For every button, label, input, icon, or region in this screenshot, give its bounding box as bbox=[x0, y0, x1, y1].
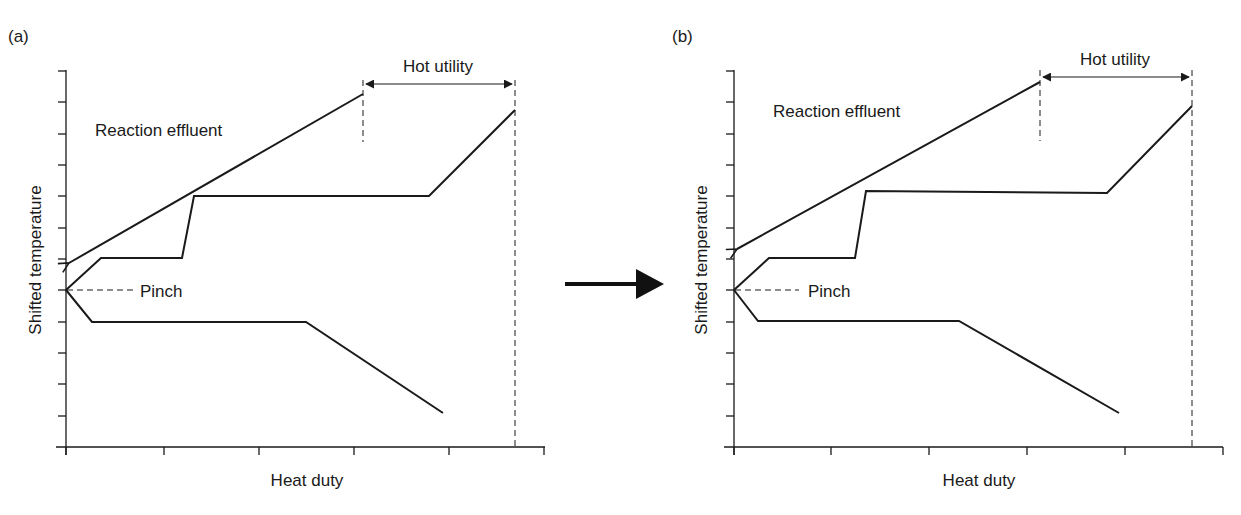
y-axis-label: Shifted temperature bbox=[26, 185, 45, 334]
composite-curve-lower bbox=[66, 290, 443, 413]
reaction-effluent-line bbox=[69, 94, 363, 263]
pinch-label: Pinch bbox=[140, 282, 183, 301]
figure-canvas: (a) Heat duty Shifted tem bbox=[0, 0, 1241, 515]
x-axis-label: Heat duty bbox=[943, 471, 1016, 490]
panel-a: (a) Heat duty Shifted tem bbox=[8, 27, 545, 490]
hot-utility-label: Hot utility bbox=[1080, 50, 1150, 69]
y-axis bbox=[58, 70, 66, 455]
hot-utility-label: Hot utility bbox=[403, 57, 473, 76]
y-axis-label: Shifted temperature bbox=[692, 185, 711, 334]
composite-curve-lower bbox=[734, 290, 1119, 413]
reaction-effluent-label: Reaction effluent bbox=[95, 121, 223, 140]
x-axis bbox=[56, 447, 545, 455]
panel-label: (b) bbox=[672, 27, 693, 46]
reaction-effluent-label: Reaction effluent bbox=[773, 102, 901, 121]
panel-b: (b) Heat duty Shifted temperat bbox=[672, 27, 1223, 490]
pinch-label: Pinch bbox=[808, 282, 851, 301]
composite-curve-upper bbox=[734, 106, 1192, 290]
x-axis bbox=[724, 447, 1223, 455]
transition-arrow-icon bbox=[565, 269, 664, 299]
x-axis-label: Heat duty bbox=[271, 471, 344, 490]
panel-label: (a) bbox=[8, 27, 29, 46]
y-axis bbox=[726, 70, 734, 455]
